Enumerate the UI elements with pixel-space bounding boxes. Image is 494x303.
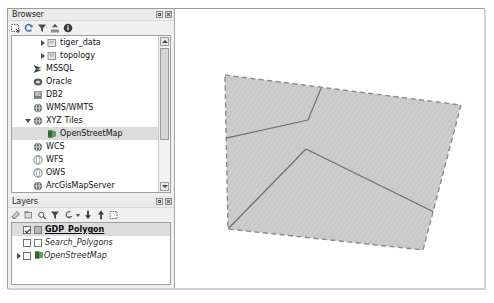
browser-tree-item[interactable]: WFS <box>12 153 158 166</box>
browser-tree-item[interactable]: topology <box>12 49 158 62</box>
float-icon[interactable] <box>156 11 163 18</box>
filter-expression-icon[interactable] <box>63 210 73 220</box>
wfs-icon <box>33 155 43 165</box>
layers-panel: Layers <box>8 196 174 288</box>
schema-icon <box>47 38 57 48</box>
expander-spacer <box>38 127 47 140</box>
layer-visibility-checkbox[interactable] <box>23 252 31 260</box>
mssql-icon <box>33 64 43 74</box>
browser-tree-item[interactable]: WCS <box>12 140 158 153</box>
expander-spacer <box>24 88 33 101</box>
arcgis-map-icon <box>33 181 43 191</box>
browser-tree-item-label: OpenStreetMap <box>60 129 123 139</box>
layer-name-label: GDP_Polygon <box>45 225 104 234</box>
scroll-up-arrow-icon[interactable] <box>160 37 169 46</box>
layer-list-item[interactable]: Search_Polygons <box>12 236 170 249</box>
gdp-polygon-fill <box>225 75 461 250</box>
ows-icon <box>33 168 43 178</box>
wcs-icon <box>33 142 43 152</box>
schema-icon <box>47 51 57 61</box>
layers-tree[interactable]: GDP_PolygonSearch_PolygonsOpenStreetMap <box>11 222 171 285</box>
scroll-down-arrow-icon[interactable] <box>160 182 169 191</box>
expander-spacer <box>24 166 33 179</box>
oracle-icon <box>33 77 43 87</box>
close-icon[interactable] <box>165 11 172 18</box>
scrollbar-thumb[interactable] <box>160 48 169 140</box>
browser-tree-item-label: Oracle <box>46 77 72 87</box>
browser-tree-item[interactable]: OWS <box>12 166 158 179</box>
polygon-swatch-icon <box>34 226 42 234</box>
db2-icon <box>33 90 43 100</box>
browser-toolbar <box>8 21 174 35</box>
wms-icon <box>33 103 43 113</box>
browser-tree-item[interactable]: Oracle <box>12 75 158 88</box>
remove-layer-icon[interactable] <box>109 210 119 220</box>
chevron-right-icon[interactable] <box>38 36 47 49</box>
browser-tree-item[interactable]: DB2 <box>12 88 158 101</box>
browser-tree-rows: tiger_datatopologyMSSQLOracleDB2WMS/WMTS… <box>12 36 158 192</box>
float-icon[interactable] <box>156 198 163 205</box>
layer-visibility-checkbox[interactable] <box>23 239 31 247</box>
browser-tree[interactable]: tiger_datatopologyMSSQLOracleDB2WMS/WMTS… <box>11 35 171 193</box>
chevron-down-icon[interactable] <box>76 210 80 220</box>
browser-vertical-scrollbar[interactable] <box>158 36 170 192</box>
filter-icon[interactable] <box>37 23 47 33</box>
browser-titlebar-buttons <box>156 11 172 18</box>
layers-titlebar-buttons <box>156 198 172 205</box>
chevron-down-icon[interactable] <box>24 114 33 127</box>
layer-list-item[interactable]: GDP_Polygon <box>12 223 170 236</box>
expander-spacer <box>24 153 33 166</box>
browser-tree-item[interactable]: ArcGisMapServer <box>12 179 158 192</box>
browser-tree-item-label: MSSQL <box>46 64 74 74</box>
add-group-icon[interactable] <box>24 210 34 220</box>
expander-spacer <box>24 140 33 153</box>
layer-visibility-checkbox[interactable] <box>23 226 31 234</box>
refresh-icon[interactable] <box>24 23 34 33</box>
layer-name-label: OpenStreetMap <box>44 251 107 260</box>
browser-tree-item[interactable]: tiger_data <box>12 36 158 49</box>
expand-all-icon[interactable] <box>83 210 93 220</box>
styling-panel-icon[interactable] <box>11 210 21 220</box>
browser-panel-title: Browser <box>12 9 44 20</box>
browser-tree-item-label: XYZ Tiles <box>46 116 83 126</box>
browser-panel: Browser <box>8 9 174 196</box>
chevron-right-icon[interactable] <box>14 249 23 262</box>
close-icon[interactable] <box>165 198 172 205</box>
collapse-all-icon[interactable] <box>96 210 106 220</box>
chevron-right-icon[interactable] <box>38 49 47 62</box>
expander-spacer <box>24 101 33 114</box>
raster-layer-icon <box>34 250 44 262</box>
layers-toolbar <box>8 208 174 222</box>
map-canvas[interactable] <box>176 9 484 288</box>
browser-tree-item[interactable]: OpenStreetMap <box>12 127 158 140</box>
browser-tree-item-label: WMS/WMTS <box>46 103 93 113</box>
visibility-icon[interactable] <box>37 210 47 220</box>
browser-tree-item-label: WFS <box>46 155 63 165</box>
layers-panel-title: Layers <box>12 196 38 207</box>
browser-tree-item[interactable]: MSSQL <box>12 62 158 75</box>
expander-spacer <box>24 75 33 88</box>
browser-tree-item-label: ArcGisMapServer <box>46 181 115 191</box>
filter-icon[interactable] <box>50 210 60 220</box>
expander-spacer <box>14 223 23 236</box>
layers-tree-rows: GDP_PolygonSearch_PolygonsOpenStreetMap <box>12 223 170 262</box>
layer-name-label: Search_Polygons <box>45 238 113 247</box>
osm-layer-icon <box>47 129 57 139</box>
layers-panel-titlebar: Layers <box>8 196 174 208</box>
layer-list-item[interactable]: OpenStreetMap <box>12 249 170 262</box>
browser-tree-item[interactable]: WMS/WMTS <box>12 101 158 114</box>
application-window: Browser <box>7 8 485 289</box>
collapse-all-icon[interactable] <box>50 23 60 33</box>
expander-spacer <box>14 236 23 249</box>
info-icon[interactable] <box>63 23 73 33</box>
browser-tree-item-label: topology <box>60 51 95 61</box>
xyz-icon <box>33 116 43 126</box>
polygon-swatch-icon <box>34 239 42 247</box>
browser-tree-item[interactable]: XYZ Tiles <box>12 114 158 127</box>
browser-tree-item-label: tiger_data <box>60 38 101 48</box>
browser-tree-item-label: DB2 <box>46 90 63 100</box>
browser-panel-titlebar: Browser <box>8 9 174 21</box>
add-layer-icon[interactable] <box>11 23 21 33</box>
expander-spacer <box>24 179 33 192</box>
browser-tree-item-label: WCS <box>46 142 65 152</box>
